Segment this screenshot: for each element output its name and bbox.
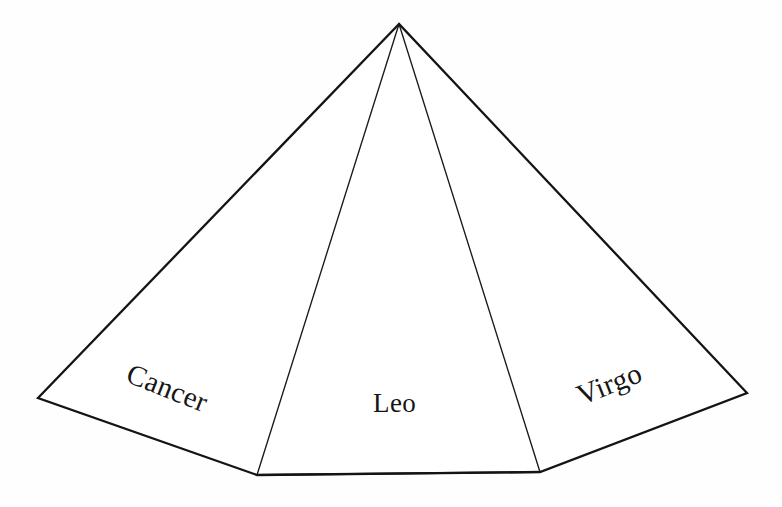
face-label-leo: Leo: [373, 388, 416, 419]
pyramid-diagram-canvas: Cancer Leo Virgo: [0, 0, 782, 507]
pyramid-figure: [0, 0, 782, 507]
